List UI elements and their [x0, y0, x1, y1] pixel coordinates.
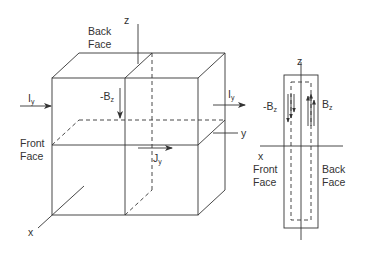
side-neg-bz-label: -Bz	[263, 100, 278, 113]
side-front-face-label-line1: Front	[253, 163, 278, 175]
side-front-face-label-line2: Face	[253, 176, 277, 188]
z-axis-label: z	[124, 14, 129, 26]
x-axis	[38, 186, 84, 228]
side-x-axis-label: x	[258, 150, 264, 162]
hidden-vertical-plane-bottom	[125, 190, 152, 215]
side-back-face-label-line1: Back	[322, 163, 346, 175]
x-axis-label: x	[28, 226, 34, 238]
cube-right-face	[198, 53, 225, 215]
front-face-label-line1: Front	[20, 137, 45, 149]
side-back-face-label-line2: Face	[322, 176, 346, 188]
y-axis-label: y	[241, 127, 247, 139]
neg-bz-label: -Bz	[100, 90, 115, 103]
cube-view	[20, 24, 245, 228]
hidden-horizontal-plane-left	[52, 120, 79, 145]
back-face-label-line2: Face	[88, 38, 112, 50]
cube-top-middle-edge	[125, 53, 152, 78]
current-density-label: Jy	[153, 152, 162, 166]
current-out-label: Iy	[228, 88, 235, 102]
side-view	[260, 62, 343, 240]
side-z-axis-label: z	[297, 55, 302, 67]
cube-labels: z y x Back Face Front Face Iy Iy -Bz Jy	[20, 14, 247, 238]
front-face-label-line2: Face	[20, 150, 44, 162]
current-in-label: Iy	[28, 92, 35, 106]
side-bz-label: Bz	[322, 98, 333, 111]
magnetic-field-diagram: z y x Back Face Front Face Iy Iy -Bz Jy …	[0, 0, 365, 273]
back-face-label-line1: Back	[88, 25, 112, 37]
cube-right-middle-edge	[198, 120, 225, 145]
